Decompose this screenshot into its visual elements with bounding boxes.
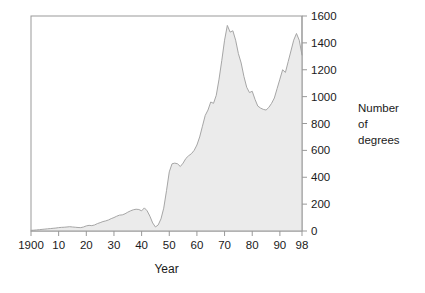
area-chart: 190010203040506070809098 020040060080010… xyxy=(0,0,425,293)
x-tick-label: 40 xyxy=(135,239,148,251)
x-tick-label: 80 xyxy=(246,239,259,251)
y-tick-label: 200 xyxy=(311,198,330,210)
y-tick-label: 1200 xyxy=(311,64,337,76)
x-tick-label: 50 xyxy=(163,239,176,251)
y-axis-title-line: of xyxy=(358,118,368,130)
x-tick-label: 60 xyxy=(191,239,204,251)
x-tick-label: 30 xyxy=(108,239,121,251)
x-tick-label: 98 xyxy=(296,239,309,251)
x-axis-title: Year xyxy=(154,262,178,276)
y-tick-label: 1600 xyxy=(311,10,337,22)
y-tick-label: 0 xyxy=(311,225,317,237)
x-tick-label: 10 xyxy=(52,239,65,251)
y-tick-label: 800 xyxy=(311,118,330,130)
y-tick-label: 1400 xyxy=(311,37,337,49)
y-axis-title-line: degrees xyxy=(358,134,400,146)
x-tick-label: 1900 xyxy=(18,239,44,251)
x-tick-label: 70 xyxy=(218,239,231,251)
y-tick-label: 400 xyxy=(311,171,330,183)
y-axis-title-line: Number xyxy=(358,102,399,114)
y-tick-label: 1000 xyxy=(311,91,337,103)
x-tick-label: 90 xyxy=(273,239,286,251)
chart-figure: 190010203040506070809098 020040060080010… xyxy=(0,0,425,293)
x-tick-label: 20 xyxy=(80,239,93,251)
y-tick-label: 600 xyxy=(311,144,330,156)
